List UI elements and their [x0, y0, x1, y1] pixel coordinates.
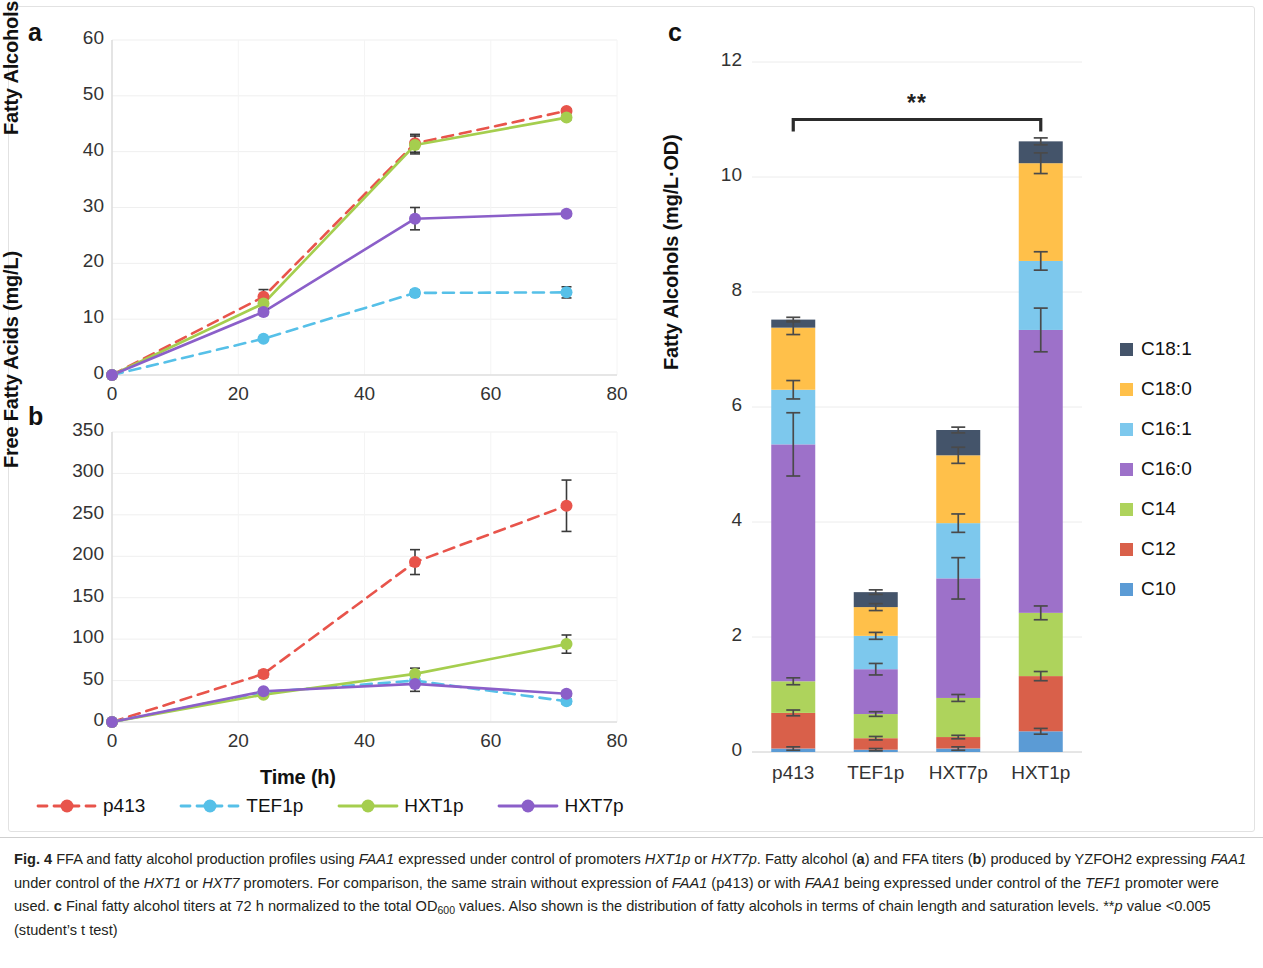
caption-text: FAA1 [805, 875, 840, 891]
caption-text: or [690, 851, 711, 867]
data-point-TEF1p [561, 286, 573, 298]
tick-label: 80 [592, 383, 642, 405]
caption-text: being expressed under control of the [840, 875, 1085, 891]
panel-b-ylabel: Free Fatty Acids (mg/L) [0, 178, 23, 468]
legend-label: p413 [103, 795, 145, 817]
bar-legend-item-C14: C14 [1120, 498, 1192, 520]
tick-label: 200 [54, 543, 104, 565]
caption-text: c [54, 898, 62, 914]
bar-segment-HXT1p-C16:0 [1019, 330, 1063, 613]
caption-text: under control of the [14, 875, 144, 891]
line-series-p413 [112, 111, 567, 375]
bar-legend-swatch-C10 [1120, 583, 1133, 596]
tick-label: 4 [690, 509, 742, 531]
bar-legend-label: C14 [1141, 498, 1176, 520]
panel-a-letter: a [28, 18, 42, 47]
bar-legend-label: C18:1 [1141, 338, 1192, 360]
bar-segment-TEF1p-C16:0 [854, 669, 898, 714]
caption-text: p [1115, 898, 1123, 914]
tick-label: 350 [54, 419, 104, 441]
legend-swatch-HXT1p [337, 797, 399, 815]
data-point-HXT1p [561, 112, 573, 124]
caption-divider [0, 837, 1263, 838]
data-point-HXT7p [106, 716, 118, 728]
tick-label: 60 [466, 383, 516, 405]
caption-text: (p413) or with [707, 875, 804, 891]
panel-c-plot: ** [752, 62, 1082, 752]
bar-segment-HXT7p-C18:0 [936, 455, 980, 523]
caption-text: HXT7p [711, 851, 756, 867]
tick-label: 20 [54, 250, 104, 272]
caption-text: Final fatty alcohol titers at 72 h norma… [62, 898, 438, 914]
line-series-HXT1p [112, 644, 567, 722]
bar-legend-label: C18:0 [1141, 378, 1192, 400]
bar-segment-TEF1p-C14 [854, 714, 898, 738]
panel-b-letter: b [28, 402, 43, 431]
caption-text: HXT1p [645, 851, 690, 867]
tick-label: 0 [54, 709, 104, 731]
bar-segment-HXT1p-C18:0 [1019, 163, 1063, 261]
caption-text: ) produced by YZFOH2 expressing [981, 851, 1210, 867]
data-point-HXT7p [258, 306, 270, 318]
line-series-HXT7p [112, 684, 567, 722]
caption-text: values. Also shown is the distribution o… [455, 898, 1115, 914]
tick-label: 40 [54, 139, 104, 161]
caption-text: FAA1 [1211, 851, 1246, 867]
bar-legend-item-C16:0: C16:0 [1120, 458, 1192, 480]
caption-text: or [181, 875, 202, 891]
tick-label: 100 [54, 626, 104, 648]
panel-a-svg [112, 40, 617, 375]
caption-text: HXT7 [202, 875, 239, 891]
bar-legend-swatch-C14 [1120, 503, 1133, 516]
bar-segment-p413-C16:0 [771, 444, 815, 681]
tick-label: 300 [54, 460, 104, 482]
tick-label: 10 [54, 306, 104, 328]
bar-segment-HXT7p-C14 [936, 698, 980, 737]
bar-legend-label: C10 [1141, 578, 1176, 600]
tick-label: 20 [213, 730, 263, 752]
tick-label: 0 [54, 362, 104, 384]
bar-segment-p413-C14 [771, 681, 815, 713]
tick-label: 10 [690, 164, 742, 186]
caption-text: FAA1 [672, 875, 707, 891]
bar-legend-item-C12: C12 [1120, 538, 1192, 560]
bar-segment-HXT1p-C14 [1019, 613, 1063, 676]
panel-b-svg [112, 432, 617, 722]
caption-text: Fig. 4 [14, 851, 52, 867]
panel-c-ylabel: Fatty Alcohols (mg/L·OD) [660, 30, 683, 370]
bar-legend-item-C10: C10 [1120, 578, 1192, 600]
line-series-TEF1p [112, 292, 567, 375]
bar-legend-label: C16:1 [1141, 418, 1192, 440]
tick-label: 8 [690, 279, 742, 301]
legend-item-HXT1p: HXT1p [337, 795, 463, 817]
tick-label: 50 [54, 83, 104, 105]
tick-label: 50 [54, 668, 104, 690]
bar-legend-swatch-C18:1 [1120, 343, 1133, 356]
data-point-HXT7p [409, 213, 421, 225]
panel-c-svg: ** [752, 62, 1082, 752]
bar-legend-swatch-C16:1 [1120, 423, 1133, 436]
line-series-HXT7p [112, 214, 567, 375]
data-point-p413 [561, 500, 573, 512]
legend-swatch-TEF1p [179, 797, 241, 815]
figure-caption: Fig. 4 FFA and fatty alcohol production … [14, 848, 1252, 943]
legend-swatch-p413 [36, 797, 98, 815]
tick-label: 6 [690, 394, 742, 416]
data-point-p413 [258, 668, 270, 680]
data-point-HXT7p [106, 369, 118, 381]
line-series-HXT1p [112, 118, 567, 375]
bar-legend-swatch-C12 [1120, 543, 1133, 556]
caption-text: ) and FFA titers ( [865, 851, 973, 867]
bar-legend-swatch-C18:0 [1120, 383, 1133, 396]
bar-chart-legend: C18:1C18:0C16:1C16:0C14C12C10 [1120, 338, 1192, 618]
tick-label: 60 [54, 27, 104, 49]
caption-text: FFA and fatty alcohol production profile… [56, 851, 359, 867]
legend-label: TEF1p [246, 795, 303, 817]
data-point-HXT7p [561, 688, 573, 700]
bar-segment-p413-C12 [771, 713, 815, 749]
panel-a-ylabel: Fatty Alcohols (mg/L) [0, 0, 23, 135]
bar-legend-swatch-C16:0 [1120, 463, 1133, 476]
legend-item-p413: p413 [36, 795, 145, 817]
caption-text: TEF1 [1085, 875, 1121, 891]
tick-label: 60 [466, 730, 516, 752]
